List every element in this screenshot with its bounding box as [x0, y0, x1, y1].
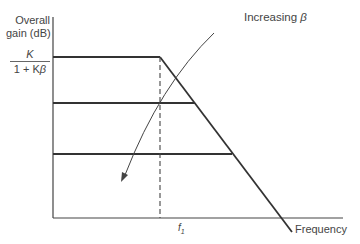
gain-denominator: 1 + Kβ: [8, 63, 52, 75]
annotation-beta-symbol: β: [300, 11, 307, 23]
y-axis-label-line2: gain (dB): [6, 27, 50, 40]
cutoff-subscript: 1: [181, 228, 185, 235]
gain-numerator: K: [8, 48, 52, 60]
gain-denominator-prefix: 1 + K: [14, 63, 40, 75]
gain-fraction-label: K 1 + Kβ: [8, 48, 52, 75]
y-axis-label-line1: Overall: [6, 14, 50, 27]
annotation-text: Increasing: [244, 11, 300, 23]
gain-frequency-plot: [0, 0, 360, 244]
cutoff-frequency-label: f1: [178, 222, 185, 235]
arrow-head-icon: [121, 172, 128, 182]
beta-symbol: β: [40, 63, 46, 75]
increasing-beta-annotation: Increasing β: [244, 11, 307, 23]
rolloff-line: [160, 57, 292, 232]
fraction-bar: [10, 61, 50, 62]
x-axis-label: Frequency: [295, 223, 347, 235]
y-axis-label: Overall gain (dB): [6, 14, 50, 40]
